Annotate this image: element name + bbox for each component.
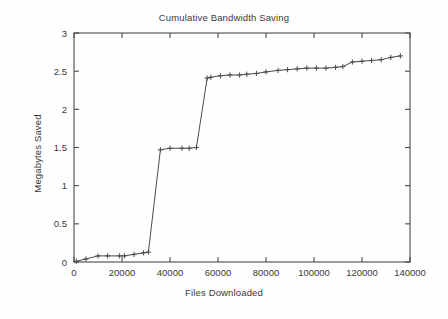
data-series-markers — [74, 53, 403, 264]
y-tick-label: 0 — [62, 257, 67, 268]
plot-area: 00.511.522.53020000400006000080000100000… — [0, 0, 448, 319]
chart-figure: Cumulative Bandwidth Saving 00.511.522.5… — [0, 0, 448, 319]
y-tick-label: 0.5 — [54, 218, 67, 229]
x-tick-label: 80000 — [253, 267, 279, 278]
x-axis-ticks: 020000400006000080000100000120000140000 — [71, 33, 426, 278]
y-tick-label: 1 — [62, 180, 67, 191]
x-tick-label: 40000 — [157, 267, 183, 278]
y-tick-label: 2.5 — [54, 66, 67, 77]
x-tick-label: 140000 — [394, 267, 426, 278]
y-tick-label: 3 — [62, 28, 67, 39]
x-tick-label: 20000 — [109, 267, 135, 278]
x-tick-label: 120000 — [346, 267, 378, 278]
y-tick-label: 1.5 — [54, 142, 67, 153]
y-axis-label: Megabytes Saved — [32, 84, 43, 224]
x-axis-label: Files Downloaded — [0, 287, 448, 298]
data-series-line — [76, 56, 400, 261]
x-tick-label: 100000 — [298, 267, 330, 278]
x-tick-label: 0 — [71, 267, 76, 278]
plot-frame — [74, 33, 410, 262]
plot-canvas: 00.511.522.53020000400006000080000100000… — [0, 0, 448, 319]
y-axis-ticks: 00.511.522.53 — [54, 28, 410, 268]
y-tick-label: 2 — [62, 104, 67, 115]
x-tick-label: 60000 — [205, 267, 231, 278]
